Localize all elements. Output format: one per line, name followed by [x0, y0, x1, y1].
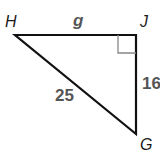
vertex-label-g: G	[140, 136, 152, 153]
triangle-diagram: H J G g 16 25	[0, 0, 160, 160]
vertex-label-h: H	[5, 13, 17, 30]
vertex-label-j: J	[139, 13, 149, 30]
side-label-jg: 16	[142, 74, 160, 93]
side-label-hj: g	[72, 11, 84, 30]
side-label-hg: 25	[55, 86, 74, 105]
right-angle-mark	[118, 35, 136, 53]
